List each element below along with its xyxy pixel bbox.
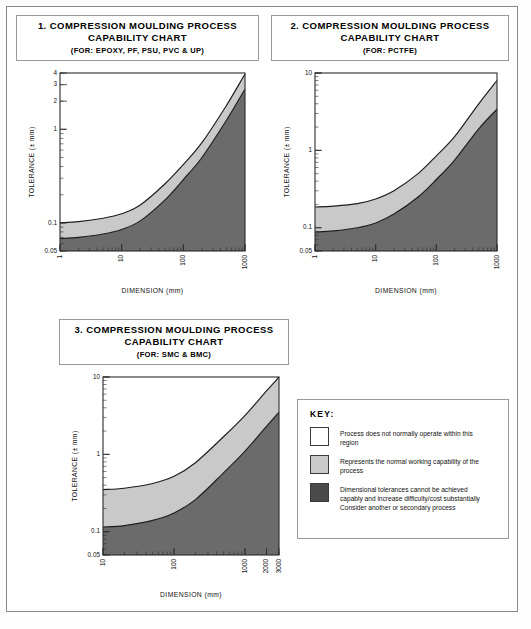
svg-text:100: 100 bbox=[432, 255, 439, 266]
svg-text:10: 10 bbox=[117, 255, 124, 263]
svg-text:DIMENSION (mm): DIMENSION (mm) bbox=[122, 287, 184, 295]
svg-text:TOLERANCE (± mm): TOLERANCE (± mm) bbox=[283, 126, 291, 197]
key-title: KEY: bbox=[310, 409, 508, 419]
svg-text:2000: 2000 bbox=[262, 559, 269, 574]
svg-text:0.05: 0.05 bbox=[45, 247, 58, 254]
chart-3-subtitle: (FOR: SMC & BMC) bbox=[62, 349, 286, 360]
key-row-dark: Dimensional tolerances cannot be achieve… bbox=[310, 483, 508, 512]
key-row-light: Represents the normal working capability… bbox=[310, 455, 508, 475]
key-swatch-light-gray bbox=[310, 455, 329, 474]
svg-text:1: 1 bbox=[311, 255, 318, 259]
svg-text:1: 1 bbox=[96, 450, 100, 457]
svg-text:10: 10 bbox=[93, 373, 101, 380]
chart-2-title: 2. COMPRESSION MOULDING PROCESS CAPABILI… bbox=[274, 20, 506, 44]
key-swatch-dark-gray bbox=[310, 483, 329, 502]
svg-text:0.1: 0.1 bbox=[48, 219, 57, 226]
svg-text:10: 10 bbox=[305, 69, 313, 76]
chart-3-svg: 101001000200030000.050.1110DIMENSION (mm… bbox=[59, 371, 289, 603]
chart-3-title-box: 3. COMPRESSION MOULDING PROCESS CAPABILI… bbox=[59, 319, 289, 365]
svg-text:4: 4 bbox=[53, 69, 57, 76]
chart-1-subtitle: (FOR: EPOXY, PF, PSU, PVC & UP) bbox=[19, 45, 256, 56]
chart-2-block: 2. COMPRESSION MOULDING PROCESS CAPABILI… bbox=[271, 15, 509, 305]
svg-text:0.05: 0.05 bbox=[88, 551, 101, 558]
chart-1-title-box: 1. COMPRESSION MOULDING PROCESS CAPABILI… bbox=[16, 15, 259, 61]
svg-text:100: 100 bbox=[179, 255, 186, 266]
svg-text:1000: 1000 bbox=[241, 559, 248, 574]
chart-3-title: 3. COMPRESSION MOULDING PROCESS CAPABILI… bbox=[62, 324, 286, 348]
svg-text:1000: 1000 bbox=[493, 255, 500, 270]
key-row-white: Process does not normally operate within… bbox=[310, 427, 508, 447]
svg-text:1000: 1000 bbox=[241, 255, 248, 270]
svg-text:1: 1 bbox=[53, 125, 57, 132]
svg-text:3000: 3000 bbox=[275, 559, 282, 574]
chart-3-block: 3. COMPRESSION MOULDING PROCESS CAPABILI… bbox=[59, 319, 289, 611]
svg-text:100: 100 bbox=[170, 559, 177, 570]
chart-1-title: 1. COMPRESSION MOULDING PROCESS CAPABILI… bbox=[19, 20, 256, 44]
key-label-white: Process does not normally operate within… bbox=[340, 427, 490, 447]
svg-text:DIMENSION (mm): DIMENSION (mm) bbox=[375, 287, 437, 295]
chart-1-svg: 11010010000.050.11234DIMENSION (mm)TOLER… bbox=[16, 67, 259, 299]
svg-text:DIMENSION (mm): DIMENSION (mm) bbox=[160, 591, 222, 599]
chart-3-plot: 101001000200030000.050.1110DIMENSION (mm… bbox=[59, 371, 289, 603]
key-panel: KEY: Process does not normally operate w… bbox=[297, 399, 509, 539]
svg-text:TOLERANCE (± mm): TOLERANCE (± mm) bbox=[28, 126, 36, 197]
chart-2-title-box: 2. COMPRESSION MOULDING PROCESS CAPABILI… bbox=[271, 15, 509, 61]
svg-text:0.1: 0.1 bbox=[91, 527, 100, 534]
chart-2-subtitle: (FOR: PCTFE) bbox=[274, 45, 506, 56]
chart-2-svg: 11010010000.050.1110DIMENSION (mm)TOLERA… bbox=[271, 67, 509, 299]
key-label-light: Represents the normal working capability… bbox=[340, 455, 490, 475]
svg-text:3: 3 bbox=[53, 80, 57, 87]
svg-text:TOLERANCE (± mm): TOLERANCE (± mm) bbox=[71, 430, 79, 501]
svg-text:0.1: 0.1 bbox=[303, 223, 312, 230]
svg-text:10: 10 bbox=[99, 559, 106, 567]
chart-2-plot: 11010010000.050.1110DIMENSION (mm)TOLERA… bbox=[271, 67, 509, 299]
key-label-dark: Dimensional tolerances cannot be achieve… bbox=[340, 483, 490, 512]
chart-1-block: 1. COMPRESSION MOULDING PROCESS CAPABILI… bbox=[16, 15, 259, 305]
page-frame: 1. COMPRESSION MOULDING PROCESS CAPABILI… bbox=[6, 6, 518, 612]
svg-text:1: 1 bbox=[56, 255, 63, 259]
svg-text:10: 10 bbox=[371, 255, 378, 263]
key-swatch-white bbox=[310, 427, 329, 446]
svg-text:1: 1 bbox=[308, 146, 312, 153]
svg-text:2: 2 bbox=[53, 97, 57, 104]
chart-1-plot: 11010010000.050.11234DIMENSION (mm)TOLER… bbox=[16, 67, 259, 299]
svg-text:0.05: 0.05 bbox=[300, 247, 313, 254]
